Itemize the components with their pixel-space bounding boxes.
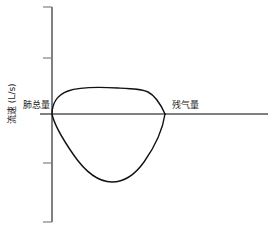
expiratory-limb-curve	[52, 87, 165, 114]
inspiratory-limb-curve	[52, 114, 165, 182]
plot-area	[0, 0, 271, 229]
total-lung-capacity-label: 肺总量	[23, 101, 50, 110]
residual-volume-label: 残气量	[172, 101, 199, 110]
flow-volume-loop-figure: 流速 (L/s) 肺总量 残气量	[0, 0, 271, 229]
y-axis-label: 流速 (L/s)	[8, 83, 17, 124]
